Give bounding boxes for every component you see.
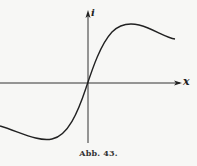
y-axis-label: i [91,7,95,18]
diagram-canvas [0,0,197,166]
x-axis-label: x [183,75,190,88]
figure-caption: Abb. 43. [0,148,197,158]
